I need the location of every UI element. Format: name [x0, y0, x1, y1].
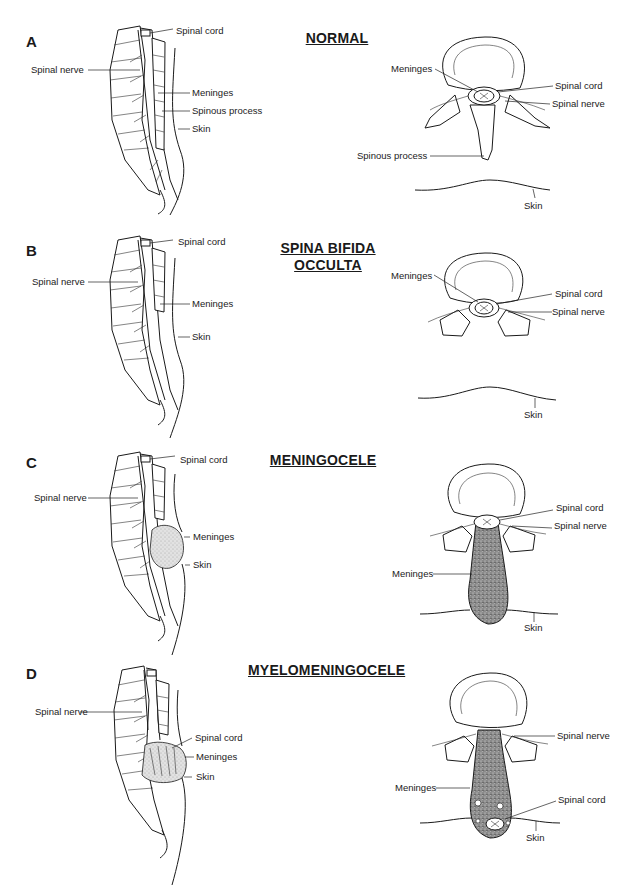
label-spinal-nerve-axial: Spinal nerve — [552, 306, 605, 317]
label-meninges-axial: Meninges — [391, 63, 432, 74]
panel-c-meningocele: C MENINGOCELE Spinal cord Spinal nerve M… — [0, 440, 627, 660]
panel-b-spina-bifida-occulta: B SPINA BIFIDA OCCULTA Spinal cord Spina… — [0, 220, 627, 440]
lamina-left — [445, 736, 474, 762]
label-spinal-cord-axial: Spinal cord — [556, 502, 604, 513]
axial-vertebra-drawing — [0, 220, 627, 440]
lamina-right — [505, 736, 537, 762]
transverse-process-right — [505, 95, 550, 128]
nerve-root — [497, 803, 503, 809]
lamina-left — [440, 310, 470, 336]
nerve-root — [476, 819, 480, 823]
label-spinal-nerve-axial: Spinal nerve — [557, 730, 610, 741]
axial-vertebra-drawing — [0, 0, 627, 220]
panel-a-normal: A NORMAL Spinal cord Spinal nerve Mening… — [0, 0, 627, 220]
label-skin-axial: Skin — [524, 622, 542, 633]
label-spinal-nerve-axial: Spinal nerve — [554, 520, 607, 531]
label-spinous-process-axial: Spinous process — [357, 150, 427, 161]
lamina-left — [443, 526, 472, 552]
label-meninges-axial: Meninges — [391, 270, 432, 281]
label-meninges-axial: Meninges — [395, 782, 436, 793]
label-spinal-cord-axial: Spinal cord — [555, 80, 603, 91]
panel-d-myelomeningocele: D MYELOMENINGOCELE Spinal nerve Spinal c… — [0, 660, 627, 891]
vertebral-body — [445, 253, 523, 304]
label-skin-axial: Skin — [524, 200, 542, 211]
spinous-process — [470, 105, 495, 160]
lamina-right — [498, 310, 530, 336]
label-spinal-cord-axial: Spinal cord — [555, 288, 603, 299]
label-spinal-cord-axial: Spinal cord — [558, 794, 606, 805]
label-meninges-axial: Meninges — [392, 568, 433, 579]
nerve-root — [506, 821, 510, 825]
meningeal-sac — [469, 522, 508, 624]
axial-vertebra-drawing — [0, 660, 627, 891]
skin-line — [415, 180, 550, 190]
label-skin-axial: Skin — [524, 409, 542, 420]
label-spinal-nerve-axial: Spinal nerve — [552, 98, 605, 109]
label-skin-axial: Skin — [526, 832, 544, 843]
nerve-root — [475, 800, 481, 806]
lamina-right — [503, 526, 535, 552]
